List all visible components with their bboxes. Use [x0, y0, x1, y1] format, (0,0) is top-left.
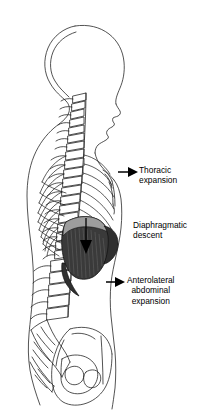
label-anterolateral-line3: expansion — [127, 296, 175, 306]
label-diaphragmatic-line2: descent — [133, 230, 187, 240]
label-anterolateral-line2: abdominal — [127, 285, 175, 295]
anatomical-figure: Thoracic expansion Diaphragmatic descent… — [0, 0, 209, 411]
label-diaphragmatic-line1: Diaphragmatic — [133, 220, 187, 230]
label-thoracic-line1: Thoracic — [139, 165, 177, 175]
label-thoracic-expansion: Thoracic expansion — [139, 165, 177, 186]
figure-background — [0, 0, 209, 411]
label-anterolateral-abdominal-expansion: Anterolateral abdominal expansion — [127, 275, 175, 306]
label-anterolateral-line1: Anterolateral — [127, 275, 175, 285]
label-diaphragmatic-descent: Diaphragmatic descent — [133, 220, 187, 241]
anatomy-illustration — [0, 0, 209, 411]
label-thoracic-line2: expansion — [139, 175, 177, 185]
